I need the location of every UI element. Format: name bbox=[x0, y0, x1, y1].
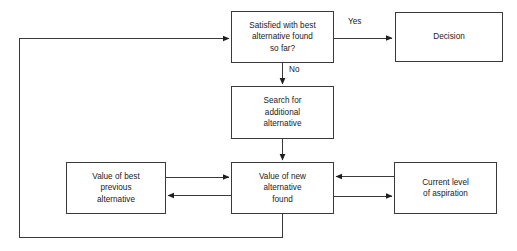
node-satisfied-label: Satisfied with best alternative found so… bbox=[246, 20, 318, 55]
node-newvalue-label: Value of new alternative found bbox=[256, 171, 309, 206]
node-decision-label: Decision bbox=[430, 31, 468, 43]
node-satisfied-with-best-alternative: Satisfied with best alternative found so… bbox=[231, 11, 334, 63]
node-search-for-additional-alternative: Search for additional alternative bbox=[231, 86, 334, 139]
node-value-of-best-previous-alternative: Value of best previous alternative bbox=[66, 162, 166, 214]
node-decision: Decision bbox=[395, 12, 503, 62]
node-aspiration-label: Current level of aspiration bbox=[419, 177, 472, 200]
node-bestprev-label: Value of best previous alternative bbox=[89, 171, 142, 206]
edge-label-yes: Yes bbox=[348, 17, 361, 27]
flowchart-diagram: Satisfied with best alternative found so… bbox=[0, 0, 517, 251]
node-current-level-of-aspiration: Current level of aspiration bbox=[394, 162, 497, 214]
node-search-label: Search for additional alternative bbox=[261, 95, 305, 130]
edge-label-no: No bbox=[289, 65, 299, 75]
node-value-of-new-alternative-found: Value of new alternative found bbox=[231, 162, 334, 214]
